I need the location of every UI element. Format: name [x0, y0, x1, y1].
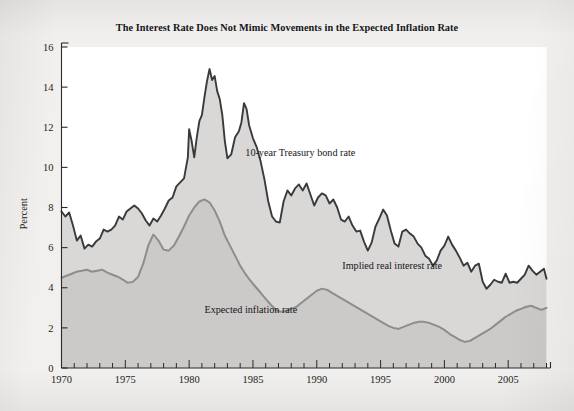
x-axis-tick-label: 1980 [179, 374, 200, 385]
bond-series-annotation: 10-year Treasury bond rate [245, 147, 356, 158]
y-axis-title: Percent [18, 198, 29, 230]
y-axis-tick-label: 8 [48, 202, 53, 213]
inflation-series-annotation: Expected inflation rate [204, 304, 297, 315]
y-axis-tick-label: 12 [43, 122, 54, 133]
chart-figure: The Interest Rate Does Not Mimic Movemen… [0, 0, 574, 411]
y-axis-tick-label: 0 [48, 363, 53, 374]
chart-plot-area: 0246810121416Percent19701975198019851990… [0, 0, 574, 411]
y-axis-tick-label: 16 [43, 42, 54, 53]
y-axis-tick-label: 10 [43, 162, 54, 173]
x-axis-tick-label: 2005 [498, 374, 519, 385]
x-axis-tick-label: 1985 [242, 374, 263, 385]
y-axis-tick-label: 2 [48, 323, 53, 334]
x-axis-tick-label: 1995 [370, 374, 391, 385]
real-rate-series-annotation: Implied real interest rate [342, 260, 442, 271]
y-axis-tick-label: 6 [48, 242, 53, 253]
x-axis-tick-label: 1970 [51, 374, 72, 385]
y-axis-tick-label: 14 [43, 82, 54, 93]
y-axis-tick-label: 4 [48, 282, 54, 293]
x-axis-tick-label: 1990 [306, 374, 327, 385]
x-axis-tick-label: 1975 [115, 374, 136, 385]
x-axis-tick-label: 2000 [434, 374, 455, 385]
